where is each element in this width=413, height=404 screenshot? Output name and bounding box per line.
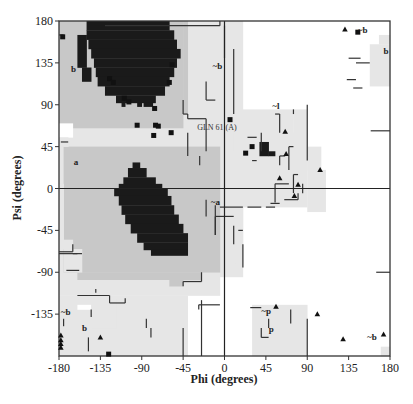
y-tick-label: 135 bbox=[35, 56, 53, 70]
region-cell bbox=[119, 196, 172, 206]
x-tick-label: -90 bbox=[134, 361, 150, 375]
region-cell bbox=[183, 21, 188, 114]
region-cell bbox=[91, 49, 180, 59]
y-tick-label: -90 bbox=[37, 265, 53, 279]
region-cell bbox=[114, 189, 168, 197]
region-cell bbox=[123, 177, 155, 184]
region-cell bbox=[133, 162, 141, 168]
residue-square-point bbox=[243, 151, 248, 156]
x-axis-label: Phi (degrees) bbox=[191, 372, 258, 386]
region-label: ~l bbox=[272, 101, 280, 111]
x-tick-label: 180 bbox=[381, 361, 399, 375]
glycine-triangle-point bbox=[381, 332, 387, 337]
region-cell bbox=[105, 86, 165, 96]
region-cell bbox=[122, 205, 175, 215]
region-cell bbox=[77, 272, 201, 280]
region-cell bbox=[59, 123, 73, 137]
region-label: b bbox=[71, 64, 76, 74]
residue-square-point bbox=[106, 352, 111, 357]
region-cell bbox=[77, 305, 91, 310]
glycine-triangle-point bbox=[342, 26, 348, 31]
region-label: ~b bbox=[213, 61, 223, 71]
residue-square-point bbox=[156, 124, 161, 129]
x-tick-label: 90 bbox=[301, 361, 313, 375]
glycine-triangle-point bbox=[340, 336, 346, 341]
residue-square-point bbox=[126, 99, 131, 104]
region-label: a bbox=[74, 157, 79, 167]
x-tick-label: 45 bbox=[260, 361, 272, 375]
residue-square-point bbox=[167, 80, 172, 85]
region-label: ~b bbox=[358, 25, 368, 35]
residue-square-point bbox=[135, 123, 140, 128]
x-tick-label: -135 bbox=[89, 361, 111, 375]
region-cell bbox=[59, 296, 188, 357]
region-cell bbox=[151, 250, 188, 256]
region-cell bbox=[125, 215, 179, 225]
x-tick-label: -45 bbox=[175, 361, 191, 375]
region-cell bbox=[96, 68, 174, 78]
residue-square-point bbox=[250, 144, 255, 149]
region-label: p bbox=[269, 324, 274, 334]
region-cell bbox=[77, 35, 86, 68]
region-cell bbox=[82, 68, 91, 82]
residue-square-point bbox=[170, 62, 175, 67]
residue-square-point bbox=[152, 106, 157, 111]
region-cell bbox=[122, 103, 126, 107]
residue-square-point bbox=[228, 117, 233, 122]
region-cell bbox=[381, 347, 390, 357]
residue-square-point bbox=[111, 80, 116, 85]
y-tick-label: -135 bbox=[31, 307, 53, 321]
region-cell bbox=[94, 58, 177, 68]
y-tick-label: 45 bbox=[41, 140, 53, 154]
region-cell bbox=[137, 233, 188, 243]
region-cell bbox=[269, 151, 276, 156]
region-cell bbox=[87, 30, 175, 40]
region-label: ~p bbox=[261, 306, 271, 316]
y-tick-label: 180 bbox=[35, 14, 53, 28]
residue-square-point bbox=[122, 96, 127, 101]
region-cell bbox=[243, 109, 294, 133]
region-cell bbox=[131, 224, 184, 234]
y-axis-label: Psi (degrees) bbox=[10, 156, 24, 221]
region-label: b bbox=[82, 323, 87, 333]
region-cell bbox=[307, 147, 321, 171]
glycine-triangle-point bbox=[315, 311, 321, 316]
region-cell bbox=[144, 103, 153, 107]
y-tick-label: 0 bbox=[47, 182, 53, 196]
ramachandran-chart: ba~bb~b~a~l~pp~bb~bGLN 61 (A) -180-135-9… bbox=[0, 0, 413, 404]
residue-annotation: GLN 61 (A) bbox=[197, 123, 237, 132]
region-cell bbox=[293, 109, 307, 170]
x-tick-label: 135 bbox=[340, 361, 358, 375]
y-tick-label: 90 bbox=[41, 98, 53, 112]
region-label: ~b bbox=[367, 332, 377, 342]
residue-square-point bbox=[60, 34, 65, 39]
x-tick-label: -180 bbox=[48, 361, 70, 375]
region-cell bbox=[137, 103, 142, 107]
region-cell bbox=[59, 184, 64, 240]
plot-canvas: ba~bb~b~a~l~pp~bb~bGLN 61 (A) -180-135-9… bbox=[0, 0, 413, 404]
region-cell bbox=[88, 40, 177, 50]
region-cell bbox=[144, 242, 188, 250]
region-cell bbox=[307, 170, 326, 212]
region-cell bbox=[59, 240, 73, 250]
residue-square-point bbox=[169, 130, 174, 135]
region-cell bbox=[169, 280, 183, 287]
region-cell bbox=[379, 35, 390, 45]
region-label: ~a bbox=[211, 197, 221, 207]
y-tick-label: -45 bbox=[37, 223, 53, 237]
region-label: ~b bbox=[61, 307, 71, 317]
residue-square-point bbox=[151, 133, 156, 138]
region-cell bbox=[128, 168, 147, 178]
region-cell bbox=[64, 249, 83, 273]
region-label: b bbox=[384, 46, 389, 56]
